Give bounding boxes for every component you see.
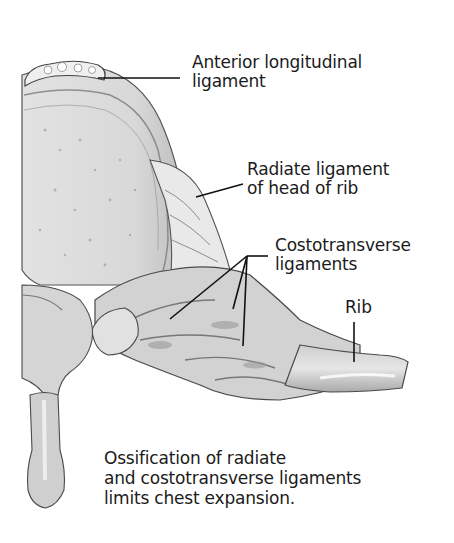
leader-radiate <box>196 184 243 197</box>
anatomy-figure: Anterior longitudinal ligament Radiate l… <box>0 0 454 543</box>
spinous-process <box>28 393 65 509</box>
label-line: Costotransverse <box>275 236 411 255</box>
label-line: Rib <box>345 298 372 317</box>
label-line: ligament <box>192 72 362 91</box>
label-line: Anterior longitudinal <box>192 53 362 72</box>
label-rib: Rib <box>345 298 372 317</box>
label-radiate-ligament: Radiate ligament of head of rib <box>247 160 389 198</box>
label-line: ligaments <box>275 255 411 274</box>
label-line: Radiate ligament <box>247 160 389 179</box>
label-line: of head of rib <box>247 179 389 198</box>
rib <box>285 345 408 392</box>
caption-line: Ossification of radiate <box>104 448 361 468</box>
vertebral-arch <box>22 285 93 400</box>
label-costotransverse-ligaments: Costotransverse ligaments <box>275 236 411 274</box>
figure-caption: Ossification of radiate and costotransve… <box>104 448 361 508</box>
caption-line: and costotransverse ligaments <box>104 468 361 488</box>
caption-line: limits chest expansion. <box>104 488 361 508</box>
label-anterior-longitudinal-ligament: Anterior longitudinal ligament <box>192 53 362 91</box>
